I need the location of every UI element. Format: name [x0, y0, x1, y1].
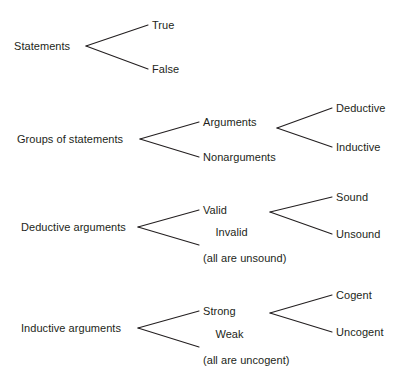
- edge-valid-sound: [270, 197, 332, 212]
- edge-statements-false: [86, 46, 148, 69]
- node-sound: Sound: [336, 191, 368, 204]
- edge-inductive-strong: [138, 311, 199, 328]
- node-true: True: [152, 19, 174, 32]
- node-invalid-sublabel: (all are unsound): [203, 252, 286, 265]
- node-cogent: Cogent: [336, 289, 372, 302]
- node-inductive: Inductive: [336, 141, 380, 154]
- node-invalid: Invalid (all are unsound): [203, 213, 286, 291]
- node-false: False: [152, 63, 179, 76]
- node-uncogent: Uncogent: [336, 326, 384, 339]
- taxonomy-diagram: Statements True False Groups of statemen…: [0, 0, 406, 391]
- edge-arguments-deductive: [277, 108, 332, 128]
- node-nonarguments: Nonarguments: [203, 151, 276, 164]
- node-invalid-label: Invalid: [215, 226, 247, 238]
- edge-deductive-valid: [138, 210, 199, 227]
- node-groups-of-statements: Groups of statements: [17, 133, 123, 146]
- node-statements: Statements: [14, 40, 70, 53]
- edge-inductive-weak: [138, 328, 199, 347]
- node-weak-label: Weak: [215, 328, 243, 340]
- node-deductive: Deductive: [336, 102, 385, 115]
- node-arguments: Arguments: [203, 116, 257, 129]
- node-unsound: Unsound: [336, 228, 380, 241]
- node-weak: Weak (all are uncogent): [203, 315, 290, 391]
- edge-deductive-invalid: [138, 227, 199, 245]
- node-weak-sublabel: (all are uncogent): [203, 354, 290, 367]
- node-inductive-arguments: Inductive arguments: [21, 322, 121, 335]
- node-deductive-arguments: Deductive arguments: [21, 221, 126, 234]
- edge-groups-arguments: [140, 122, 199, 139]
- edge-strong-cogent: [270, 295, 332, 313]
- edge-statements-true: [86, 25, 148, 46]
- edge-groups-nonarguments: [140, 139, 199, 157]
- edge-arguments-inductive: [277, 128, 332, 147]
